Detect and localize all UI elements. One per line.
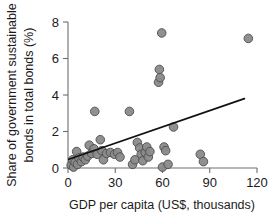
data-point <box>96 135 105 144</box>
data-point <box>155 65 164 74</box>
y-tick-label: 4 <box>52 88 59 103</box>
data-point <box>116 153 125 162</box>
y-tick-label: 8 <box>52 15 59 30</box>
scatter-chart: 02468 0306090120 GDP per capita (US$, th… <box>0 0 275 220</box>
y-tick-label: 2 <box>52 124 59 139</box>
data-point <box>157 29 166 38</box>
data-point <box>164 160 173 169</box>
data-point <box>199 157 208 166</box>
chart-background <box>0 0 275 220</box>
data-point <box>146 147 155 156</box>
x-tick-label: 30 <box>108 175 122 190</box>
chart-canvas: 02468 0306090120 GDP per capita (US$, th… <box>0 0 275 220</box>
y-tick-label: 0 <box>52 161 59 176</box>
x-tick-label: 60 <box>155 175 169 190</box>
data-point <box>156 73 165 82</box>
x-axis-title: GDP per capita (US$, thousands) <box>69 198 255 212</box>
data-point <box>90 107 99 116</box>
data-point <box>244 34 253 43</box>
y-tick-label: 6 <box>52 51 59 66</box>
x-tick-label: 90 <box>203 175 217 190</box>
x-tick-label: 0 <box>64 175 71 190</box>
y-axis-title-line2: bonds in total bonds (%) <box>22 28 36 163</box>
y-axis-title-line1: Share of government sustainable <box>5 3 19 186</box>
x-tick-label: 120 <box>246 175 268 190</box>
data-point <box>161 146 170 155</box>
data-point <box>125 107 134 116</box>
